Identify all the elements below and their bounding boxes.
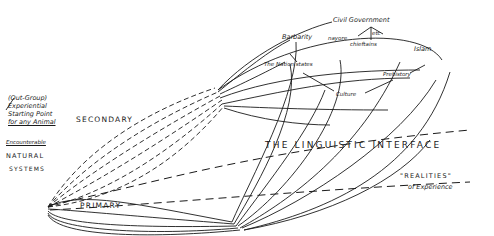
starting-point-label: Starting Point	[8, 111, 52, 118]
primary-label: PRIMARY	[80, 202, 121, 210]
etc-label: etc	[372, 31, 381, 37]
secondary-dashed-arcs	[48, 88, 224, 207]
chieftains-label: chieftains	[350, 42, 377, 48]
culture-label: Culture	[336, 92, 356, 98]
primary-solid-arcs	[48, 200, 240, 235]
nation-states-label: The Nation states	[264, 62, 313, 68]
experiential-label: Experiential	[8, 103, 47, 110]
linguistic-interface-label: THE LINGUISTIC INTERFACE	[265, 141, 441, 150]
secondary-label: SECONDARY	[76, 116, 133, 124]
prehistory-label: Prehistory	[383, 72, 411, 78]
civil-government-label: Civil Government	[333, 17, 390, 24]
nayore-label: nayore	[328, 36, 347, 42]
realities-label: "REALITIES"	[400, 173, 452, 180]
natural-label: NATURAL	[6, 153, 44, 160]
systems-label: SYSTEMS	[9, 166, 45, 172]
barbarity-label: Barbarity	[282, 34, 312, 41]
of-experience-label: of Experience	[408, 184, 453, 191]
out-group-label: (Out-Group)	[8, 95, 47, 102]
diagram-lines	[0, 0, 494, 236]
encounterable-label: Encounterable	[6, 140, 46, 146]
islam-label: Islam	[414, 46, 431, 53]
for-any-animal-label: for any Animal	[8, 119, 56, 126]
